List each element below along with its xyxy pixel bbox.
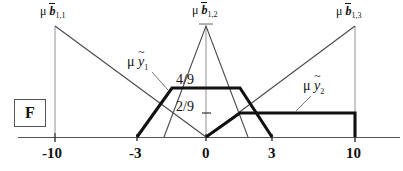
b-symbol: b <box>345 4 351 19</box>
panel-tag-f-label: F <box>25 104 35 122</box>
y-subscript: 2 <box>320 87 324 96</box>
b-subscript: 1,2 <box>207 10 217 19</box>
mu-symbol: μ <box>336 4 342 18</box>
axis-tick-label-10: 10 <box>346 145 361 162</box>
b-subscript: 1,1 <box>55 11 65 20</box>
axis-tick-label--10: -10 <box>42 145 62 162</box>
y-subscript: 1 <box>144 63 148 72</box>
label-mu-b-1-1: μ b1,1 <box>40 4 65 20</box>
curve-mu-y-2 <box>206 113 355 137</box>
mu-symbol: μ <box>192 3 198 17</box>
axis-tick-label-0: 0 <box>202 145 210 162</box>
b-symbol: b <box>49 4 55 19</box>
label-mu-y-2: μ y2 <box>303 78 324 96</box>
label-mu-b-1-3: μ b1,3 <box>336 4 361 20</box>
level-tick-marks <box>202 88 211 113</box>
axis-tick-label--3: -3 <box>129 145 142 162</box>
b-subscript: 1,3 <box>351 11 361 20</box>
label-mu-y-1: μ y1 <box>127 54 148 72</box>
b-symbol: b <box>201 3 207 18</box>
axis-tick-label-3: 3 <box>268 145 276 162</box>
label-level-4-9: 4/9 <box>176 72 194 88</box>
mu-symbol: μ <box>303 78 311 93</box>
panel-tag-f: F <box>14 99 46 127</box>
mu-symbol: μ <box>127 54 135 69</box>
leader-mu-y-2 <box>296 96 311 111</box>
mu-symbol: μ <box>40 4 46 18</box>
y-symbol: y <box>138 54 144 70</box>
leader-mu-y-1 <box>152 72 168 90</box>
label-mu-b-1-2: μ b1,2 <box>192 3 217 19</box>
y-symbol: y <box>314 78 320 94</box>
label-level-2-9: 2/9 <box>176 99 194 115</box>
